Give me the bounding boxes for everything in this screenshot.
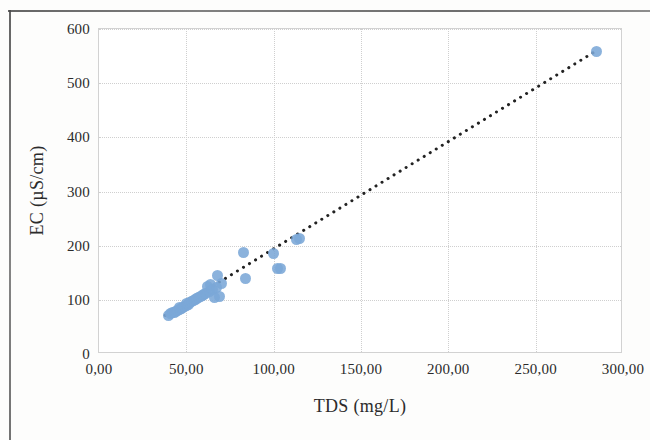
scan-border-top	[8, 10, 650, 12]
gridline-vertical	[536, 29, 537, 352]
gridline-horizontal	[99, 29, 621, 30]
scan-border-left	[9, 10, 11, 440]
x-axis-tick-label: 0,00	[85, 361, 112, 378]
scatter-point	[167, 307, 178, 318]
scatter-point	[212, 270, 223, 281]
x-axis-tick-label: 200,00	[427, 361, 469, 378]
x-axis-tick-label: 100,00	[252, 361, 294, 378]
scatter-point	[186, 296, 197, 307]
scatter-point	[294, 233, 305, 244]
scatter-point	[176, 303, 187, 314]
y-axis-tick-label: 0	[82, 346, 90, 363]
scatter-point	[211, 282, 222, 293]
scatter-point	[170, 306, 181, 317]
scatter-point	[291, 234, 302, 245]
gridline-horizontal	[99, 300, 621, 301]
x-axis-tick-label: 250,00	[514, 361, 556, 378]
scatter-point	[209, 292, 220, 303]
y-axis-tick-label: 600	[67, 21, 90, 38]
scatter-point	[205, 279, 216, 290]
y-axis-tick-label: 500	[67, 75, 90, 92]
scatter-point	[165, 308, 176, 319]
scatter-point	[169, 307, 180, 318]
scatter-point	[172, 305, 183, 316]
scatter-point	[200, 288, 211, 299]
x-axis-tick-label: 150,00	[340, 361, 382, 378]
scatter-point	[275, 263, 286, 274]
gridline-vertical	[274, 29, 275, 352]
trend-line	[99, 29, 621, 352]
y-axis-tick-label: 300	[67, 183, 90, 200]
x-axis-tick-label: 50,00	[169, 361, 204, 378]
scatter-point	[193, 292, 204, 303]
x-axis-tick-label: 300,00	[602, 361, 644, 378]
scatter-point	[198, 289, 209, 300]
scatter-point	[202, 281, 213, 292]
scatter-point	[174, 302, 185, 313]
gridline-vertical	[186, 29, 187, 352]
y-axis-tick-label: 200	[67, 237, 90, 254]
scatter-point	[238, 247, 249, 258]
scatter-point	[204, 286, 215, 297]
y-axis-title: EC (µS/cm)	[26, 28, 48, 353]
scatter-point	[163, 310, 174, 321]
gridline-vertical	[361, 29, 362, 352]
gridline-vertical	[448, 29, 449, 352]
scatter-point	[591, 46, 602, 57]
scatter-point	[216, 278, 227, 289]
scatter-point	[191, 293, 202, 304]
scatter-point	[179, 301, 190, 312]
scatter-point	[207, 284, 218, 295]
gridline-horizontal	[99, 83, 621, 84]
scatter-point	[174, 304, 185, 315]
figure-container: EC (µS/cm) TDS (mg/L) 010020030040050060…	[0, 0, 650, 440]
y-axis-tick-label: 100	[67, 291, 90, 308]
scatter-points	[99, 29, 621, 352]
gridline-horizontal	[99, 246, 621, 247]
gridline-horizontal	[99, 137, 621, 138]
x-axis-title: TDS (mg/L)	[98, 396, 622, 417]
y-axis-tick-label: 400	[67, 129, 90, 146]
plot-area: 0100200300400500600 0,0050,00100,00150,0…	[98, 28, 622, 353]
gridline-horizontal	[99, 192, 621, 193]
scatter-point	[240, 273, 251, 284]
